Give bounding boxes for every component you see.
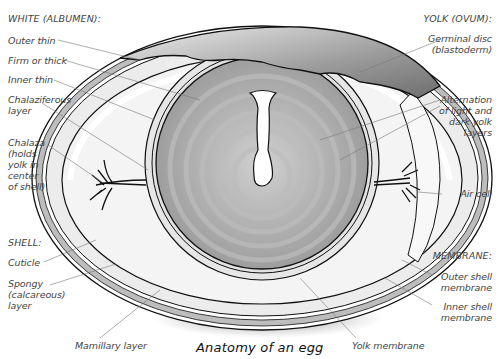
- label-spongy-layer: Spongy (calcareous) layer: [8, 278, 65, 311]
- label-yolk-membrane: Yolk membrane: [352, 340, 424, 351]
- membrane-header: MEMBRANE:: [433, 250, 492, 261]
- label-germinal-disc: Germinal disc (blastoderm): [428, 33, 492, 55]
- label-outer-thin: Outer thin: [8, 35, 55, 46]
- label-chalaza: Chalaza (holds yolk in center of shell): [8, 137, 45, 192]
- shell-header: SHELL:: [8, 237, 42, 248]
- diagram-title: Anatomy of an egg: [196, 340, 324, 355]
- label-cuticle: Cuticle: [8, 257, 40, 268]
- label-inner-shell-membrane: Inner shell membrane: [441, 301, 492, 323]
- yolk-ovum-header: YOLK (OVUM):: [423, 13, 492, 24]
- white-albumen-header: WHITE (ALBUMEN):: [8, 13, 101, 24]
- label-firm-or-thick: Firm or thick: [8, 55, 67, 66]
- label-outer-shell-membrane: Outer shell membrane: [441, 271, 492, 293]
- label-chalaziferous-layer: Chalaziferous layer: [8, 94, 71, 116]
- yolk: [156, 57, 368, 269]
- label-inner-thin: Inner thin: [8, 74, 53, 85]
- label-air-cell: Air cell: [460, 188, 492, 199]
- egg-diagram: [0, 0, 500, 359]
- label-mamillary-layer: Mamillary layer: [75, 340, 147, 351]
- label-yolk-layers: Alternation of light and dark yolk layer…: [439, 94, 492, 138]
